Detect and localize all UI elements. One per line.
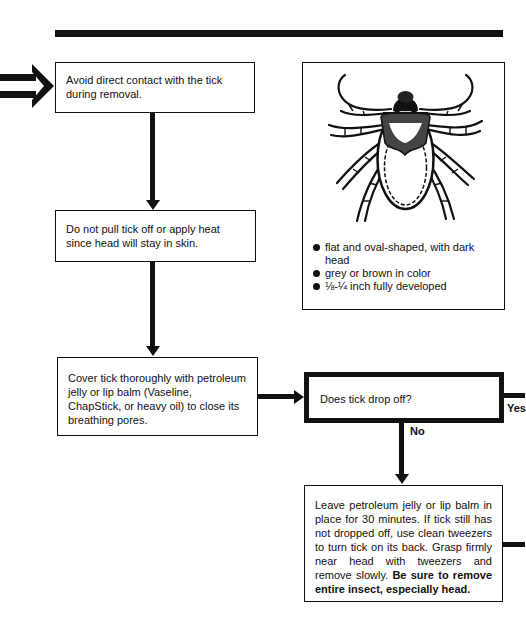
yes-label: Yes <box>507 402 526 414</box>
step-cover-tick: Cover tick thoroughly with petroleum jel… <box>57 357 258 436</box>
connector-line <box>258 394 295 399</box>
arrow-down-icon <box>146 346 160 356</box>
step-do-not-pull: Do not pull tick off or apply heat since… <box>55 210 256 262</box>
bullet-item: flat and oval-shaped, with dark head <box>313 241 501 267</box>
tick-info-panel: flat and oval-shaped, with dark head gre… <box>302 62 505 310</box>
step-text: Cover tick thoroughly with petroleum jel… <box>68 371 247 427</box>
step-text: Do not pull tick off or apply heat since… <box>66 222 245 250</box>
no-connector-line <box>399 423 404 475</box>
bullet-item: grey or brown in color <box>313 267 501 280</box>
tick-illustration <box>323 71 488 231</box>
decision-text: Does tick drop off? <box>320 392 489 406</box>
bullet-item: ⅛-¼ inch fully developed <box>313 280 501 293</box>
arrow-right-icon <box>294 390 304 404</box>
double-arrow-right-icon <box>0 62 56 112</box>
yes-connector-line <box>504 393 525 398</box>
step-text: Avoid direct contact with the tick durin… <box>66 73 244 101</box>
connector-line <box>503 542 525 547</box>
connector-line <box>150 262 155 346</box>
tick-characteristics-list: flat and oval-shaped, with dark head gre… <box>313 241 501 293</box>
arrow-down-icon <box>146 200 160 210</box>
top-rule <box>55 30 503 37</box>
no-label: No <box>410 425 425 437</box>
arrow-down-icon <box>395 474 409 484</box>
step-leave-jelly: Leave petroleum jelly or lip balm in pla… <box>304 485 503 602</box>
connector-line <box>150 113 155 201</box>
decision-does-tick-drop-off: Does tick drop off? <box>304 372 504 423</box>
step-avoid-contact: Avoid direct contact with the tick durin… <box>55 62 255 113</box>
